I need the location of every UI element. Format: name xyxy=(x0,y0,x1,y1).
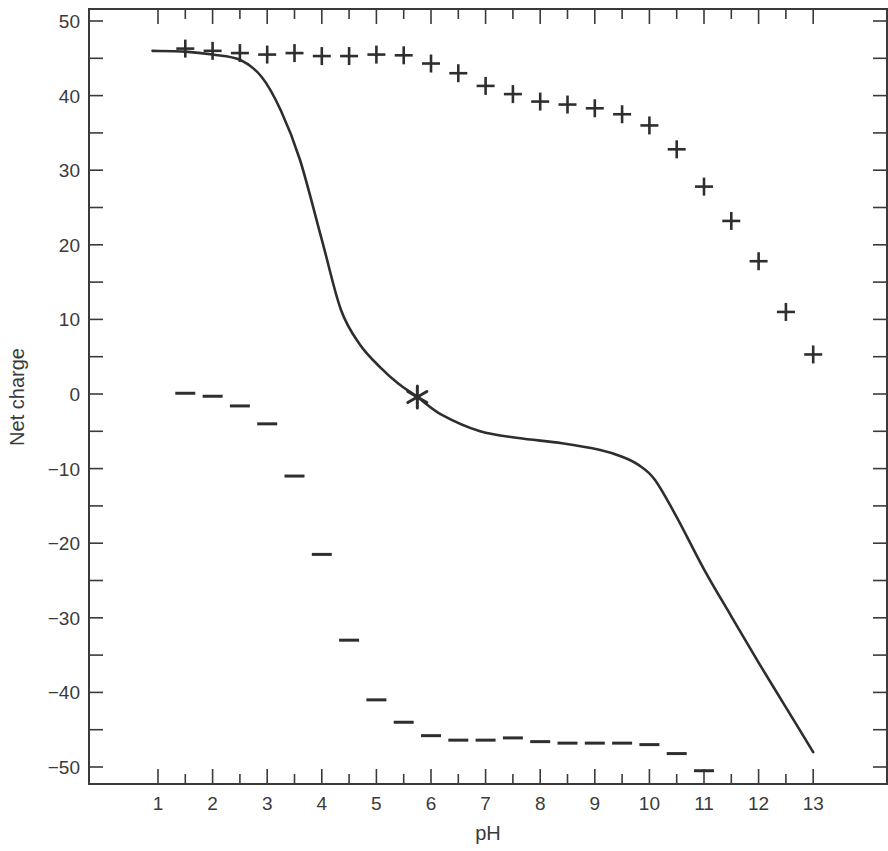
annotation-layer xyxy=(408,386,427,408)
plus-marker-icon xyxy=(559,96,577,114)
plus-marker-icon xyxy=(258,46,276,64)
plus-marker-icon xyxy=(313,47,331,65)
y-tick-label: −10 xyxy=(48,459,80,480)
x-tick-label: 9 xyxy=(590,793,601,814)
y-tick-label: −30 xyxy=(48,608,80,629)
plus-marker-icon xyxy=(504,85,522,103)
plus-marker-icon xyxy=(531,93,549,111)
net-charge-curve xyxy=(153,51,814,752)
y-tick-label: 40 xyxy=(59,86,80,107)
y-axis-title: Net charge xyxy=(6,348,28,446)
plus-marker-icon xyxy=(750,252,768,270)
x-tick-label: 7 xyxy=(480,793,491,814)
x-tick-label: 4 xyxy=(317,793,328,814)
x-tick-label: 2 xyxy=(207,793,218,814)
y-tick-label: −40 xyxy=(48,682,80,703)
y-tick-label: 0 xyxy=(69,384,80,405)
x-axis-title: pH xyxy=(475,822,501,844)
y-tick-label: 10 xyxy=(59,309,80,330)
plus-marker-icon xyxy=(231,44,249,62)
plus-marker-icon xyxy=(395,46,413,64)
x-axis-tick-labels: 12345678910111213 xyxy=(153,793,824,814)
x-tick-label: 12 xyxy=(748,793,769,814)
plus-marker-icon xyxy=(695,178,713,196)
y-tick-label: 50 xyxy=(59,11,80,32)
plus-marker-icon xyxy=(449,64,467,82)
plus-marker-icon xyxy=(640,116,658,134)
x-tick-label: 3 xyxy=(262,793,273,814)
y-axis-ticks xyxy=(89,21,887,767)
x-tick-label: 8 xyxy=(535,793,546,814)
isoelectric-point-asterisk-icon xyxy=(408,386,427,408)
plus-marker-icon xyxy=(613,105,631,123)
net-charge-vs-ph-chart: 12345678910111213 50403020100−10−20−30−4… xyxy=(0,0,888,851)
y-tick-label: −50 xyxy=(48,757,80,778)
plus-marker-icon xyxy=(477,77,495,95)
series-layer xyxy=(153,40,823,771)
y-tick-label: 20 xyxy=(59,235,80,256)
plus-marker-icon xyxy=(422,55,440,73)
plus-marker-icon xyxy=(204,42,222,60)
y-tick-label: −20 xyxy=(48,533,80,554)
x-tick-label: 11 xyxy=(694,793,714,814)
plus-marker-icon xyxy=(586,99,604,117)
plus-marker-icon xyxy=(722,212,740,230)
plus-marker-icon xyxy=(286,44,304,62)
x-tick-label: 13 xyxy=(803,793,824,814)
x-tick-label: 6 xyxy=(426,793,437,814)
x-tick-label: 5 xyxy=(371,793,382,814)
plus-marker-icon xyxy=(367,46,385,64)
x-tick-label: 10 xyxy=(639,793,660,814)
plus-marker-icon xyxy=(777,303,795,321)
plus-marker-icon xyxy=(340,47,358,65)
x-axis-ticks xyxy=(158,9,813,784)
plus-marker-icon xyxy=(176,40,194,58)
x-tick-label: 1 xyxy=(153,793,164,814)
y-axis-tick-labels: 50403020100−10−20−30−40−50 xyxy=(48,11,80,778)
plus-marker-icon xyxy=(804,345,822,363)
plus-marker-icon xyxy=(668,140,686,158)
y-tick-label: 30 xyxy=(59,160,80,181)
